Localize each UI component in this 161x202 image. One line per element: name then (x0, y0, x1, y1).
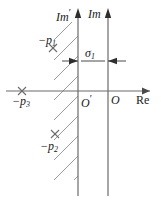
axis-label-imaginary: Im (88, 8, 101, 20)
pole-label-p2-subscript: 2 (54, 145, 58, 154)
axis-label-real-text: Re (136, 93, 149, 107)
pole-label-p1: −p1 (38, 34, 56, 48)
pole-label-p2: −p2 (40, 140, 58, 154)
pole-marker-p2 (51, 130, 59, 138)
pole-label-p2-prefix: −p (40, 139, 54, 153)
prime-mark-origin: ′ (90, 93, 92, 104)
axis-label-imaginary-text: Im (88, 7, 101, 21)
sigma1-label: σ1 (85, 47, 95, 61)
axis-label-imaginary-shifted-text: Im (56, 10, 69, 24)
sigma1-subscript: 1 (91, 52, 95, 61)
pole-label-p3-prefix: −p (12, 94, 26, 108)
origin-label-shifted: O′ (81, 94, 92, 109)
pole-label-p1-subscript: 1 (52, 39, 56, 48)
pole-label-p1-prefix: −p (38, 33, 52, 47)
axis-label-imaginary-shifted: Im′ (56, 8, 71, 23)
pole-label-p3: −p3 (12, 95, 30, 109)
origin-label-text: O (111, 93, 120, 107)
axis-label-real: Re (136, 94, 149, 106)
pole-label-p3-subscript: 3 (26, 100, 30, 109)
origin-label-shifted-text: O (81, 96, 90, 110)
origin-label: O (111, 94, 120, 106)
pole-zero-diagram: Im′ Im Re O′ O σ1 −p1 −p2 −p3 (0, 0, 161, 202)
prime-mark-im: ′ (69, 7, 71, 18)
